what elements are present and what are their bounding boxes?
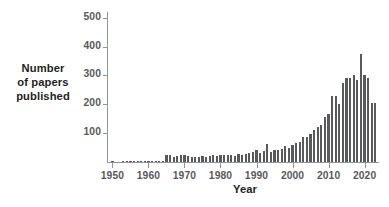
y-tick-label: 300 xyxy=(84,68,101,79)
y-axis-title-line-2: of papers xyxy=(6,75,80,89)
bar xyxy=(273,150,275,162)
y-tick-mark xyxy=(103,18,108,19)
y-tick-mark xyxy=(103,47,108,48)
bar xyxy=(313,130,315,162)
x-tick-mark xyxy=(112,163,113,168)
bar xyxy=(169,155,171,163)
bar xyxy=(291,145,293,162)
bar xyxy=(241,155,243,162)
bar xyxy=(209,156,211,162)
y-tick-label: 400 xyxy=(84,40,101,51)
bar xyxy=(155,161,157,162)
y-tick: 200 xyxy=(107,104,108,105)
bar xyxy=(320,125,322,162)
y-tick-mark xyxy=(103,133,108,134)
chart-figure: Number of papers published Year 10020030… xyxy=(0,0,389,207)
bar xyxy=(144,161,146,162)
bar xyxy=(288,148,290,162)
bar xyxy=(245,154,247,162)
bar xyxy=(194,157,196,162)
bar xyxy=(353,75,355,162)
x-tick-label: 1950 xyxy=(92,170,132,181)
bar xyxy=(356,80,358,162)
bar xyxy=(367,78,369,162)
bar xyxy=(277,150,279,162)
bar xyxy=(216,156,218,162)
x-tick-mark xyxy=(220,163,221,168)
x-tick-label: 1960 xyxy=(128,170,168,181)
bar xyxy=(183,155,185,162)
bar xyxy=(252,152,254,162)
bar xyxy=(345,78,347,162)
x-tick-mark xyxy=(257,163,258,168)
bar xyxy=(137,161,139,162)
bar xyxy=(162,161,164,162)
x-tick-label: 1970 xyxy=(164,170,204,181)
x-tick-label: 2010 xyxy=(309,170,349,181)
bar xyxy=(363,75,365,162)
x-tick-label: 2020 xyxy=(345,170,385,181)
bar xyxy=(327,114,329,162)
bar xyxy=(309,134,311,162)
bar xyxy=(281,149,283,162)
bar xyxy=(342,83,344,162)
bar xyxy=(223,155,225,163)
bar xyxy=(227,155,229,162)
plot-area: 100200300400500 195019601970198019902000… xyxy=(107,12,379,163)
y-tick-mark xyxy=(103,75,108,76)
bar xyxy=(324,117,326,162)
bar xyxy=(255,150,257,162)
y-tick: 300 xyxy=(107,75,108,76)
bar xyxy=(302,137,304,162)
bar xyxy=(176,156,178,162)
bar xyxy=(191,157,193,162)
bar xyxy=(237,154,239,162)
y-axis-line xyxy=(107,12,108,163)
x-tick-label: 2000 xyxy=(273,170,313,181)
bar xyxy=(360,54,362,162)
bar xyxy=(133,161,135,162)
bar xyxy=(126,161,128,162)
bar xyxy=(212,155,214,162)
x-tick-label: 1980 xyxy=(200,170,240,181)
y-tick-label: 100 xyxy=(84,126,101,137)
bar xyxy=(140,161,142,162)
bar xyxy=(165,155,167,162)
y-tick: 100 xyxy=(107,133,108,134)
x-tick-mark xyxy=(329,163,330,168)
bar xyxy=(263,151,265,162)
bar xyxy=(147,161,149,162)
bar xyxy=(111,161,113,162)
bar xyxy=(173,157,175,162)
x-tick-mark xyxy=(184,163,185,168)
bar xyxy=(180,155,182,162)
bar xyxy=(122,161,124,162)
y-axis-title-line-1: Number xyxy=(6,61,80,75)
bar xyxy=(335,96,337,162)
bar xyxy=(205,157,207,162)
bar xyxy=(349,78,351,162)
bar xyxy=(284,146,286,162)
x-tick-mark xyxy=(293,163,294,168)
bar xyxy=(230,155,232,162)
bar xyxy=(234,156,236,162)
bar xyxy=(201,156,203,162)
bar xyxy=(187,156,189,162)
y-tick-label: 200 xyxy=(84,97,101,108)
x-tick-mark xyxy=(148,163,149,168)
bar xyxy=(266,144,268,162)
bar xyxy=(371,103,373,162)
bar xyxy=(248,153,250,162)
x-tick-mark xyxy=(365,163,366,168)
y-tick-mark xyxy=(103,104,108,105)
bar xyxy=(331,96,333,162)
bar xyxy=(151,161,153,162)
bar xyxy=(295,143,297,162)
bar xyxy=(317,127,319,162)
bar xyxy=(219,155,221,162)
y-tick: 400 xyxy=(107,47,108,48)
bar xyxy=(306,137,308,162)
bar xyxy=(299,142,301,162)
x-axis-title: Year xyxy=(195,183,295,195)
y-axis-title: Number of papers published xyxy=(6,61,80,103)
